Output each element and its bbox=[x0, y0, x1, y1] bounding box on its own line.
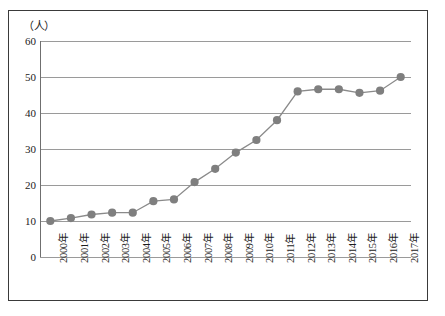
data-point-marker bbox=[211, 165, 219, 173]
data-point-marker bbox=[149, 197, 157, 205]
data-point-marker bbox=[190, 178, 198, 186]
data-point-marker bbox=[170, 195, 178, 203]
data-point-marker bbox=[108, 209, 116, 217]
plot-area: （人） 0102030405060 2000年2001年2002年2003年20… bbox=[9, 11, 427, 300]
data-point-marker bbox=[273, 116, 281, 124]
data-point-marker bbox=[67, 214, 75, 222]
data-point-marker bbox=[335, 85, 343, 93]
data-point-marker bbox=[355, 89, 363, 97]
data-point-marker bbox=[129, 209, 137, 217]
chart-figure: （人） 0102030405060 2000年2001年2002年2003年20… bbox=[8, 10, 428, 301]
data-series-layer bbox=[9, 11, 429, 302]
data-point-marker bbox=[294, 87, 302, 95]
data-point-marker bbox=[252, 136, 260, 144]
data-point-marker bbox=[232, 149, 240, 157]
data-point-marker bbox=[376, 87, 384, 95]
data-point-marker bbox=[314, 85, 322, 93]
data-point-marker bbox=[46, 217, 54, 225]
data-point-marker bbox=[87, 210, 95, 218]
data-point-marker bbox=[397, 73, 405, 81]
series-line bbox=[50, 77, 400, 221]
